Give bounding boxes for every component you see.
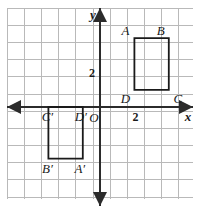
vertex-label-b-prime: B′ — [42, 161, 53, 174]
origin-label: O — [89, 111, 98, 124]
vertex-label-a-prime: A′ — [74, 161, 85, 174]
vertex-label-d-prime: D′ — [75, 110, 87, 123]
vertex-label-d: D — [121, 91, 130, 104]
x-axis-label: x — [185, 110, 192, 123]
vertex-label-c: C — [173, 91, 182, 104]
x-axis-tick-label-2: 2 — [132, 111, 138, 123]
coordinate-plane-svg — [0, 0, 200, 212]
vertex-label-c-prime: C′ — [42, 110, 54, 123]
y-axis-tick-label-2: 2 — [89, 67, 95, 79]
vertex-label-b: B — [157, 24, 165, 37]
y-axis-label: y — [90, 8, 96, 21]
vertex-label-a: A — [121, 24, 129, 37]
coordinate-plane-figure: x y O 2 2 A B C D A′ B′ C′ D′ — [0, 0, 200, 212]
